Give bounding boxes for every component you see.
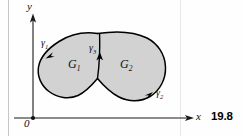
g1-subscript: 1 [77, 64, 81, 73]
y-axis-label: y [27, 1, 32, 12]
g2-subscript: 2 [129, 64, 133, 73]
gamma3-label: γ3 [89, 43, 96, 56]
origin-dot [31, 116, 35, 120]
origin-label: 0 [24, 118, 30, 129]
figure-number: 19.8 [211, 110, 233, 122]
gamma2-label: γ2 [156, 88, 163, 101]
g1-base: G [68, 57, 77, 71]
x-axis-label: x [196, 111, 201, 122]
region-g1-label: G1 [68, 58, 80, 73]
gamma1-subscript: 1 [45, 43, 48, 50]
figure-19-8: y x 0 γ1 γ2 γ3 G1 G2 19.8 [0, 0, 243, 136]
gamma1-label: γ1 [41, 38, 48, 51]
gamma3-subscript: 3 [93, 48, 96, 55]
region-g2-label: G2 [120, 58, 132, 73]
g2-base: G [120, 57, 129, 71]
region-group [38, 32, 165, 101]
gamma2-subscript: 2 [160, 93, 163, 100]
